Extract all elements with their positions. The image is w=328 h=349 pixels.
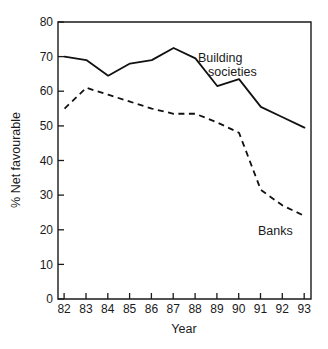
y-axis-ticks: [58, 22, 64, 299]
y-axis-tick-labels: 0 10 20 30 40 50 60 70 80: [40, 15, 54, 306]
x-tick-label: 84: [101, 302, 115, 316]
x-tick-label: 86: [145, 302, 159, 316]
y-tick-label: 80: [40, 15, 54, 29]
x-tick-label: 85: [123, 302, 137, 316]
series-line-banks: [65, 88, 305, 216]
x-axis-title: Year: [171, 322, 196, 336]
x-tick-label: 92: [276, 302, 290, 316]
x-tick-label: 88: [188, 302, 202, 316]
annotation-banks: Banks: [258, 224, 293, 238]
y-tick-label: 50: [40, 119, 54, 133]
annotation-building-societies-line1: Building: [198, 51, 243, 65]
y-tick-label: 30: [40, 188, 54, 202]
x-tick-label: 89: [210, 302, 224, 316]
x-tick-label: 93: [298, 302, 312, 316]
y-axis-title: % Net favourable: [9, 112, 23, 208]
y-tick-label: 40: [40, 154, 54, 168]
y-tick-label: 60: [40, 84, 54, 98]
x-axis-tick-labels: 82 83 84 85 86 87 88 89 90 91 92 93: [57, 302, 311, 316]
annotation-building-societies-line2: societies: [208, 65, 257, 79]
annotation-building-societies: Building societies: [198, 51, 257, 79]
y-tick-label: 0: [46, 292, 53, 306]
x-tick-label: 87: [167, 302, 181, 316]
x-tick-label: 83: [79, 302, 93, 316]
y-tick-label: 10: [40, 258, 54, 272]
y-tick-label: 20: [40, 223, 54, 237]
x-tick-label: 90: [232, 302, 246, 316]
x-axis-ticks: [64, 293, 304, 299]
y-tick-label: 70: [40, 50, 54, 64]
series-line-building-societies: [65, 48, 305, 128]
line-chart: 0 10 20 30 40 50 60 70 80 % Net favourab…: [0, 0, 328, 349]
x-tick-label: 82: [57, 302, 71, 316]
chart-container: 0 10 20 30 40 50 60 70 80 % Net favourab…: [0, 0, 328, 349]
plot-frame: [58, 22, 311, 299]
x-tick-label: 91: [254, 302, 268, 316]
annotation-banks-line1: Banks: [258, 224, 293, 238]
